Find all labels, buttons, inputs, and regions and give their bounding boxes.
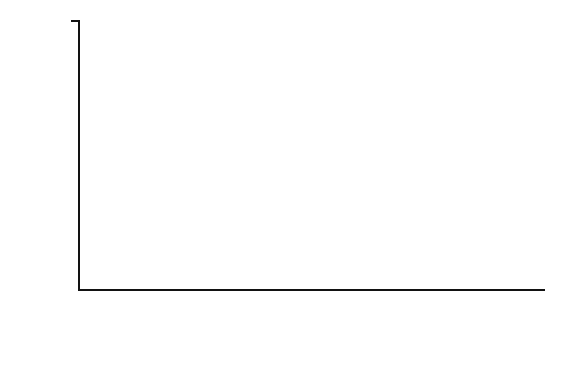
plot-area [78, 20, 545, 290]
histogram-chart [0, 0, 568, 385]
x-axis-line [78, 289, 545, 291]
x-axis-tick-labels [78, 292, 545, 385]
y-axis-tick-labels [44, 0, 72, 385]
